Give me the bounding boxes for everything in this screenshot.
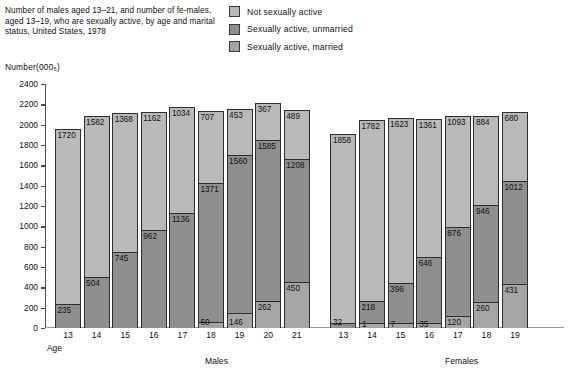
segment-sexually-active-unmarried: 1560	[227, 155, 253, 314]
segment-not-sexually-active: 1361	[416, 119, 442, 257]
segment-value-label: 707	[201, 113, 215, 122]
segment-sexually-active-unmarried: 1208	[284, 159, 310, 282]
segment-value-label: 1585	[258, 142, 276, 151]
y-axis-tick	[41, 145, 45, 146]
segment-value-label: 60	[201, 318, 210, 327]
bar-females-age-18[interactable]: 884946260	[473, 116, 499, 328]
y-axis-tick-label: 1200	[19, 201, 38, 211]
bar-females-age-17[interactable]: 1093876120	[445, 116, 471, 328]
x-axis-tick-label-females-16: 16	[416, 330, 442, 340]
segment-sexually-active-married: 146	[227, 313, 253, 328]
x-axis-tick-label-females-13: 13	[330, 330, 356, 340]
y-axis-tick	[41, 287, 45, 288]
segment-sexually-active-unmarried: 32	[330, 323, 356, 328]
y-axis-tick	[41, 125, 45, 126]
x-axis-age-label: Age	[47, 343, 62, 353]
legend-swatch-icon	[229, 24, 240, 35]
segment-value-label: 1034	[172, 109, 190, 118]
segment-sexually-active-unmarried: 876	[445, 227, 471, 316]
segment-value-label: 646	[419, 259, 433, 268]
segment-not-sexually-active: 1720	[55, 129, 81, 304]
segment-value-label: 35	[419, 320, 428, 329]
segment-value-label: 1093	[447, 118, 465, 127]
bar-males-age-18[interactable]: 707137160	[198, 111, 224, 328]
segment-sexually-active-married: 1	[359, 323, 385, 328]
segment-value-label: 367	[258, 105, 272, 114]
x-axis-tick-label-females-15: 15	[388, 330, 414, 340]
segment-sexually-active-unmarried: 646	[416, 257, 442, 323]
bar-males-age-16[interactable]: 1162962	[141, 112, 167, 328]
segment-value-label: 1720	[58, 131, 76, 140]
y-axis-tick	[41, 165, 45, 166]
segment-value-label: 450	[286, 284, 300, 293]
segment-sexually-active-married: 7	[388, 323, 414, 328]
segment-value-label: 32	[333, 318, 342, 327]
y-axis-tick-label: 1000	[19, 221, 38, 231]
segment-value-label: 1368	[115, 115, 133, 124]
y-axis-tick-label: 2000	[19, 120, 38, 130]
legend-swatch-icon	[229, 6, 240, 17]
x-axis-tick-label-females-14: 14	[359, 330, 385, 340]
segment-not-sexually-active: 680	[502, 112, 528, 181]
bar-males-age-13[interactable]: 1720235	[55, 129, 81, 328]
bar-males-age-14[interactable]: 1582504	[84, 116, 110, 328]
segment-value-label: 235	[58, 306, 72, 315]
legend-label: Sexually active, unmarried	[247, 24, 353, 34]
segment-value-label: 876	[447, 229, 461, 238]
segment-value-label: 1582	[86, 118, 104, 127]
y-axis-tick	[41, 206, 45, 207]
y-axis-tick	[41, 247, 45, 248]
y-axis-tick	[41, 84, 45, 85]
bar-females-age-15[interactable]: 16233967	[388, 118, 414, 328]
segment-value-label: 745	[115, 254, 129, 263]
segment-value-label: 1361	[419, 121, 437, 130]
y-axis-tick	[41, 226, 45, 227]
segment-sexually-active-unmarried: 962	[141, 230, 167, 328]
bar-females-age-16[interactable]: 136164635	[416, 119, 442, 328]
bar-males-age-15[interactable]: 1368745	[112, 113, 138, 328]
segment-value-label: 1136	[172, 215, 190, 224]
y-axis-tick	[41, 186, 45, 187]
segment-value-label: 431	[505, 286, 519, 295]
segment-value-label: 7	[391, 320, 396, 329]
segment-sexually-active-unmarried: 396	[388, 283, 414, 323]
segment-value-label: 1	[362, 320, 367, 329]
segment-value-label: 1012	[505, 183, 523, 192]
segment-not-sexually-active: 1858	[330, 134, 356, 323]
x-axis-tick-label-females-17: 17	[445, 330, 471, 340]
segment-sexually-active-unmarried: 504	[84, 277, 110, 328]
x-axis-tick-label-males-14: 14	[84, 330, 110, 340]
chart-caption: Number of males aged 13–21, and number o…	[5, 6, 220, 38]
chart-page: Number of males aged 13–21, and number o…	[0, 0, 570, 372]
legend-label: Not sexually active	[247, 7, 322, 17]
bar-males-age-20[interactable]: 3671585262	[255, 103, 281, 328]
segment-value-label: 504	[86, 279, 100, 288]
bar-males-age-21[interactable]: 4891208450	[284, 110, 310, 328]
y-axis-tick-label: 2200	[19, 99, 38, 109]
segment-not-sexually-active: 707	[198, 111, 224, 183]
legend-item-not-sexually-active: Not sexually active	[229, 3, 353, 21]
segment-not-sexually-active: 1782	[359, 120, 385, 301]
segment-sexually-active-married: 120	[445, 316, 471, 328]
bar-males-age-19[interactable]: 4531560146	[227, 109, 253, 328]
bar-females-age-19[interactable]: 6801012431	[502, 112, 528, 328]
x-axis-tick-label-males-15: 15	[112, 330, 138, 340]
bar-males-age-17[interactable]: 10341136	[169, 107, 195, 328]
segment-sexually-active-married: 35	[416, 323, 442, 328]
y-axis-tick-label: 1400	[19, 181, 38, 191]
segment-value-label: 680	[505, 114, 519, 123]
segment-value-label: 218	[362, 303, 376, 312]
x-axis-tick-label-males-13: 13	[55, 330, 81, 340]
segment-sexually-active-married: 431	[502, 284, 528, 328]
y-axis-tick-label: 800	[24, 242, 38, 252]
chart-legend: Not sexually active Sexually active, unm…	[229, 3, 353, 56]
x-axis-tick-label-males-17: 17	[169, 330, 195, 340]
segment-sexually-active-unmarried: 745	[112, 252, 138, 328]
segment-value-label: 260	[476, 304, 490, 313]
bar-females-age-13[interactable]: 185832	[330, 134, 356, 328]
segment-value-label: 262	[258, 303, 272, 312]
y-axis-tick-label: 1800	[19, 140, 38, 150]
bar-females-age-14[interactable]: 17822181	[359, 120, 385, 328]
segment-sexually-active-married: 450	[284, 282, 310, 328]
y-axis-tick-label: 600	[24, 262, 38, 272]
